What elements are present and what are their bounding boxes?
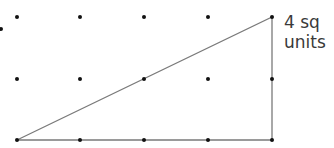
area-label-line2: units [284,32,326,52]
grid-dot [78,77,82,81]
area-label: 4 sq units [284,12,326,52]
partial-grid-dot [0,27,3,31]
grid-dot [142,15,146,19]
grid-dot [78,15,82,19]
grid-dot [270,138,274,142]
grid-dot [15,138,19,142]
area-label-line1: 4 sq [284,12,326,32]
grid-dot [15,77,19,81]
grid-dot [142,77,146,81]
grid-dot [142,138,146,142]
grid-dot [78,138,82,142]
grid-dot [206,77,210,81]
grid-dot [206,15,210,19]
grid-dot [15,15,19,19]
grid-dot [270,77,274,81]
grid-dot [270,15,274,19]
grid-dot [206,138,210,142]
